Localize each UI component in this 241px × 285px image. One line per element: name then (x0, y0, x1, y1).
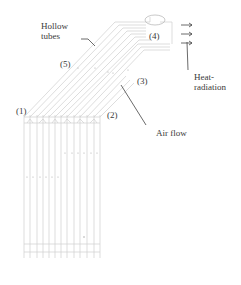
heat-radiation-label: Heat- radiation (194, 72, 226, 92)
heat-radiation-leader (187, 42, 188, 70)
marker-2: (2) (107, 110, 118, 120)
condenser-vessel (145, 15, 165, 25)
right-arrow-icon (181, 23, 192, 45)
marker-5: (5) (60, 59, 71, 69)
leader-lines (81, 39, 188, 125)
hollow-tubes-label: Hollow tubes (41, 21, 68, 41)
vertical-tube-bank (24, 115, 100, 258)
heat-pipe-diagram (0, 0, 241, 285)
air-flow-label: Air flow (156, 128, 187, 138)
marker-1: (1) (16, 106, 27, 116)
marker-3: (3) (137, 76, 148, 86)
marker-4: (4) (149, 31, 160, 41)
air-flow-leader (121, 85, 146, 125)
